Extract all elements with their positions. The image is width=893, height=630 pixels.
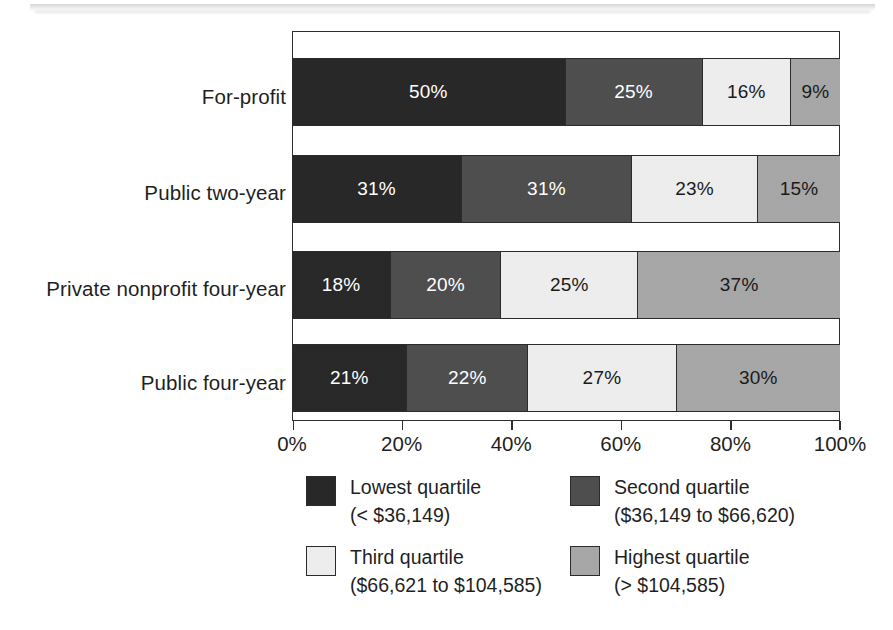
- bar-segment[interactable]: 50%: [292, 59, 566, 125]
- chart-legend: Lowest quartile (< $36,149) Second quart…: [306, 474, 866, 619]
- bar-segment-label: 31%: [357, 178, 396, 200]
- legend-swatch-icon: [306, 546, 336, 576]
- bar-segment-label: 23%: [675, 178, 714, 200]
- category-label-public-two-year: Public two-year: [6, 181, 286, 205]
- legend-item-third-quartile[interactable]: Third quartile ($66,621 to $104,585): [306, 544, 542, 599]
- category-label-private-nonprofit-four-year: Private nonprofit four-year: [6, 277, 286, 301]
- legend-swatch-icon: [570, 476, 600, 506]
- bar-segment[interactable]: 25%: [501, 252, 638, 318]
- legend-item-lowest-quartile[interactable]: Lowest quartile (< $36,149): [306, 474, 481, 529]
- bar-segment-label: 15%: [780, 178, 819, 200]
- bar-segment[interactable]: 27%: [528, 345, 676, 411]
- legend-range: (> $104,585): [614, 572, 750, 600]
- legend-item-highest-quartile[interactable]: Highest quartile (> $104,585): [570, 544, 750, 599]
- x-axis-tick-label: 60%: [600, 432, 641, 456]
- bar-segment-label: 9%: [802, 81, 830, 103]
- chart-page: For-profit Public two-year Private nonpr…: [0, 0, 893, 630]
- category-axis-labels: For-profit Public two-year Private nonpr…: [2, 31, 286, 421]
- bar-segment[interactable]: 16%: [703, 59, 791, 125]
- bar-segment[interactable]: 15%: [758, 156, 840, 222]
- legend-swatch-icon: [570, 546, 600, 576]
- bar-segment-label: 16%: [727, 81, 766, 103]
- bar-segment-label: 20%: [426, 274, 465, 296]
- bar-segment[interactable]: 20%: [391, 252, 501, 318]
- x-axis-tick-label: 0%: [277, 432, 307, 456]
- legend-range: (< $36,149): [350, 502, 481, 530]
- x-axis-tick: [621, 421, 623, 430]
- x-axis-tick: [402, 421, 404, 430]
- x-axis-tick-label: 20%: [381, 432, 422, 456]
- legend-title: Second quartile: [614, 474, 795, 502]
- bar-segment-label: 22%: [448, 367, 487, 389]
- x-axis: 0% 20% 40% 60% 80% 100%: [292, 421, 840, 465]
- x-axis-tick: [730, 421, 732, 430]
- bar-segment-label: 25%: [614, 81, 653, 103]
- bar-segment[interactable]: 37%: [638, 252, 840, 318]
- legend-range: ($36,149 to $66,620): [614, 502, 795, 530]
- bar-segment[interactable]: 31%: [292, 156, 462, 222]
- bar-segment[interactable]: 21%: [292, 345, 407, 411]
- bar-row: 31% 31% 23% 15%: [292, 155, 840, 223]
- bar-segment[interactable]: 18%: [292, 252, 391, 318]
- x-axis-tick-label: 40%: [491, 432, 532, 456]
- bar-segment-label: 18%: [322, 274, 361, 296]
- bar-segment-label: 27%: [583, 367, 622, 389]
- bar-segment-label: 21%: [330, 367, 369, 389]
- bar-segment[interactable]: 31%: [462, 156, 632, 222]
- bar-segment-label: 50%: [409, 81, 448, 103]
- category-label-public-four-year: Public four-year: [6, 371, 286, 395]
- legend-text: Lowest quartile (< $36,149): [350, 474, 481, 529]
- legend-text: Second quartile ($36,149 to $66,620): [614, 474, 795, 529]
- legend-item-second-quartile[interactable]: Second quartile ($36,149 to $66,620): [570, 474, 795, 529]
- scan-artifact-line: [35, 11, 870, 13]
- bar-segment-label: 25%: [550, 274, 589, 296]
- legend-text: Highest quartile (> $104,585): [614, 544, 750, 599]
- legend-swatch-icon: [306, 476, 336, 506]
- legend-range: ($66,621 to $104,585): [350, 572, 542, 600]
- legend-title: Third quartile: [350, 544, 542, 572]
- bar-segment[interactable]: 25%: [566, 59, 703, 125]
- legend-text: Third quartile ($66,621 to $104,585): [350, 544, 542, 599]
- bar-row: 18% 20% 25% 37%: [292, 251, 840, 319]
- x-axis-tick: [511, 421, 513, 430]
- bar-rows: 50% 25% 16% 9% 31% 31% 23% 15%: [292, 31, 840, 421]
- bar-segment-label: 37%: [720, 274, 759, 296]
- x-axis-tick: [839, 421, 841, 430]
- bar-segment-label: 30%: [739, 367, 778, 389]
- bar-segment[interactable]: 30%: [677, 345, 841, 411]
- scan-artifact-strip: [30, 4, 875, 11]
- bar-segment[interactable]: 23%: [632, 156, 758, 222]
- bar-segment[interactable]: 22%: [407, 345, 528, 411]
- bar-segment-label: 31%: [527, 178, 566, 200]
- legend-title: Highest quartile: [614, 544, 750, 572]
- legend-title: Lowest quartile: [350, 474, 481, 502]
- bar-row: 50% 25% 16% 9%: [292, 58, 840, 126]
- category-label-for-profit: For-profit: [6, 85, 286, 109]
- x-axis-tick: [293, 421, 295, 430]
- bar-row: 21% 22% 27% 30%: [292, 344, 840, 412]
- x-axis-tick-label: 100%: [814, 432, 866, 456]
- x-axis-tick-label: 80%: [710, 432, 751, 456]
- bar-segment[interactable]: 9%: [791, 59, 840, 125]
